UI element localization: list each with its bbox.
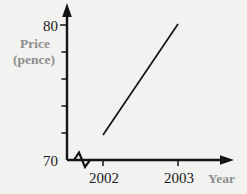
y-axis-group xyxy=(60,3,72,160)
axis-break-zigzag-icon xyxy=(68,153,96,168)
y-axis-title-line1: Price xyxy=(20,36,50,51)
x-tick-label-2003: 2003 xyxy=(164,170,194,186)
x-tick-label-2002: 2002 xyxy=(89,170,119,186)
price-data-line xyxy=(103,24,178,135)
y-tick-label-70: 70 xyxy=(43,153,58,169)
y-axis-title-line2: (pence) xyxy=(13,52,55,67)
price-year-line-chart: 80 70 Price (pence) 2002 2003 Year xyxy=(0,0,247,194)
y-tick-label-80: 80 xyxy=(43,18,58,34)
x-axis-title: Year xyxy=(208,171,235,186)
chart-canvas: 80 70 Price (pence) 2002 2003 Year xyxy=(0,0,247,194)
x-axis-arrowhead xyxy=(220,155,234,165)
y-axis-arrowhead xyxy=(62,3,72,17)
